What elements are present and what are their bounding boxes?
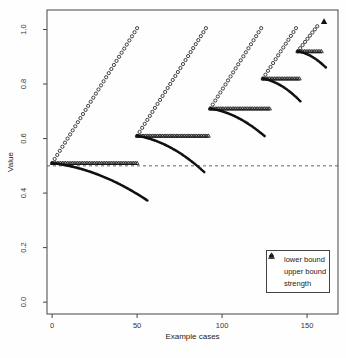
y-tick-label: 0.6 [19,133,28,143]
legend-box: lower bound upper bound strength [266,250,330,293]
legend-item-upper-bound: upper bound [272,267,329,277]
x-tick-label: 0 [50,321,54,330]
upper-bound-series [50,27,138,165]
fan-4 [261,27,301,103]
lower-bound-series [51,162,149,202]
x-tick-label: 100 [216,321,229,330]
open-circle-icon [272,267,281,276]
upper-bound-series [209,27,263,111]
legend-label: lower bound [284,255,325,264]
y-axis-title: Value [6,152,15,172]
y-tick-label: 0.8 [19,79,28,89]
y-axis: 0.00.20.40.60.81.0 [19,24,47,307]
y-tick-label: 0.0 [19,297,28,307]
x-axis-title: Example cases [165,332,219,341]
fan-1 [50,27,148,202]
lower-bound-series [209,107,266,137]
legend-item-strength: strength [272,279,329,289]
lower-bound-series [262,77,302,102]
figure: 050100150Example cases0.00.20.40.60.81.0… [0,0,346,358]
plot-canvas: 050100150Example cases0.00.20.40.60.81.0… [0,0,346,358]
lower-bound-series [136,135,206,174]
legend-label: strength [284,279,311,288]
upper-bound-series [135,27,207,138]
fan-5 [296,25,327,69]
upper-bound-series [261,27,297,81]
x-tick-label: 150 [301,321,314,330]
strength-series [296,49,323,52]
strength-series [50,161,139,164]
final-strength-marker [321,18,327,24]
y-tick-label: 1.0 [19,24,28,34]
fan-3 [208,27,271,138]
fan-2 [135,27,210,174]
open-triangle-icon [272,279,281,288]
x-tick-label: 50 [133,321,141,330]
upper-bound-series [296,25,319,53]
y-tick-label: 0.2 [19,242,28,252]
legend-item-lower-bound: lower bound [272,255,329,265]
x-axis: 050100150 [50,314,313,330]
y-tick-label: 0.4 [19,188,28,198]
legend-label: upper bound [284,267,326,276]
